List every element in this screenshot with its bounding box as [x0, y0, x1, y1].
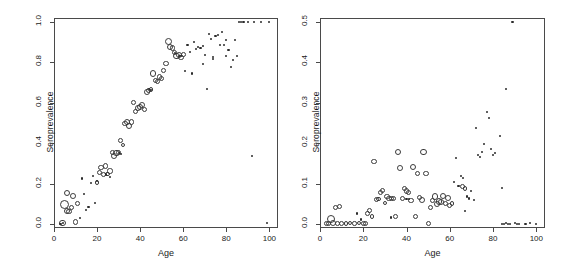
x-tick-right	[407, 228, 408, 232]
data-point-dot	[360, 218, 362, 220]
x-tick-label-right: 60	[436, 234, 464, 243]
data-point-dot	[109, 176, 111, 178]
data-point-dot	[232, 59, 234, 61]
data-point-dot	[204, 54, 206, 56]
x-tick-label-right: 40	[393, 234, 421, 243]
y-tick-label-left: 0.6	[34, 91, 43, 111]
data-point-dot	[199, 47, 201, 49]
data-point-circle	[445, 195, 451, 201]
y-tick-label-right: 0.1	[300, 172, 309, 192]
data-point-dot	[499, 135, 501, 137]
y-axis-label-left: Seroprevalence	[45, 80, 55, 164]
data-point-dot	[464, 210, 466, 212]
data-point-circle	[367, 208, 372, 213]
y-tick-right	[316, 22, 320, 23]
data-point-dot	[202, 63, 204, 65]
data-point-circle	[150, 70, 156, 76]
data-point-circle	[75, 201, 80, 206]
data-point-dot	[473, 199, 475, 201]
data-point-circle	[107, 168, 112, 173]
data-point-circle	[129, 119, 134, 124]
x-tick-label-left: 60	[169, 234, 197, 243]
data-point-dot	[242, 21, 244, 23]
data-point-dot	[90, 182, 92, 184]
x-axis-label-left: Age	[126, 248, 206, 258]
data-point-dot	[511, 21, 513, 23]
y-tick-left	[50, 62, 54, 63]
data-point-circle	[142, 107, 147, 112]
x-tick-label-right: 80	[479, 234, 507, 243]
data-point-circle	[426, 221, 431, 226]
x-tick-right	[450, 228, 451, 232]
x-tick-left	[226, 228, 227, 232]
x-tick-label-left: 80	[212, 234, 240, 243]
y-tick-label-left: 0.4	[34, 132, 43, 152]
y-tick-label-left: 0.0	[34, 212, 43, 232]
data-point-dot	[92, 175, 94, 177]
x-tick-label-right: 100	[522, 234, 550, 243]
y-tick-right	[316, 184, 320, 185]
x-tick-left	[54, 228, 55, 232]
y-axis-label-right: Seroprevalence	[311, 80, 321, 164]
data-point-dot	[219, 44, 221, 46]
y-tick-left	[50, 184, 54, 185]
data-point-dot	[501, 187, 503, 189]
data-point-dot	[518, 223, 520, 225]
data-point-circle	[73, 219, 78, 224]
data-point-dot	[191, 72, 193, 74]
figure-container: Seroprevalence Age 0.00.20.40.60.81.0020…	[0, 0, 569, 276]
data-point-dot	[210, 38, 212, 40]
data-point-circle	[69, 205, 74, 210]
data-point-circle	[370, 214, 374, 218]
x-tick-right	[320, 228, 321, 232]
data-point-dot	[453, 181, 455, 183]
data-point-dot	[457, 185, 459, 187]
data-point-dot	[356, 212, 358, 214]
data-point-circle	[413, 214, 418, 219]
x-tick-left	[269, 228, 270, 232]
data-point-circle	[371, 159, 376, 164]
y-tick-label-left: 1.0	[34, 11, 43, 31]
y-tick-left	[50, 22, 54, 23]
data-point-dot	[524, 223, 526, 225]
x-tick-left	[140, 228, 141, 232]
y-tick-right	[316, 224, 320, 225]
x-tick-left	[97, 228, 98, 232]
y-tick-right	[316, 62, 320, 63]
x-tick-right	[493, 228, 494, 232]
data-point-circle	[450, 201, 455, 206]
y-tick-left	[50, 224, 54, 225]
y-tick-right	[316, 143, 320, 144]
data-point-dot	[202, 45, 204, 47]
x-tick-label-right: 20	[349, 234, 377, 243]
data-point-circle	[400, 196, 405, 201]
y-tick-label-right: 0.5	[300, 11, 309, 31]
y-tick-left	[50, 103, 54, 104]
data-point-dot	[105, 173, 107, 175]
x-tick-left	[183, 228, 184, 232]
x-tick-label-right: 0	[306, 234, 334, 243]
y-tick-label-right: 0.3	[300, 91, 309, 111]
x-tick-label-left: 0	[40, 234, 68, 243]
y-tick-label-left: 0.8	[34, 51, 43, 71]
x-tick-right	[363, 228, 364, 232]
x-tick-right	[536, 228, 537, 232]
y-tick-right	[316, 103, 320, 104]
data-point-dot	[486, 111, 488, 113]
x-axis-label-right: Age	[393, 248, 473, 258]
x-tick-label-left: 40	[126, 234, 154, 243]
data-point-dot	[247, 21, 249, 23]
data-point-dot	[217, 34, 219, 36]
plot-frame-left	[54, 18, 278, 228]
data-point-circle	[463, 186, 468, 191]
y-tick-label-left: 0.2	[34, 172, 43, 192]
data-point-dot	[81, 177, 83, 179]
y-tick-left	[50, 143, 54, 144]
data-point-dot	[260, 21, 262, 23]
data-point-dot	[221, 31, 223, 33]
y-tick-label-right: 0.2	[300, 132, 309, 152]
y-tick-label-right: 0.0	[300, 212, 309, 232]
data-point-circle	[419, 197, 425, 203]
data-point-circle	[410, 164, 416, 170]
data-point-dot	[87, 206, 89, 208]
